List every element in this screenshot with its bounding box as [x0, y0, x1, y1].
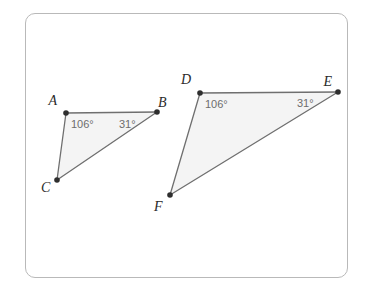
vertex-dot-c	[54, 177, 60, 183]
vertex-label-c: C	[41, 180, 51, 195]
vertex-dot-b	[154, 109, 160, 115]
vertex-dot-e	[335, 89, 341, 95]
vertex-label-f: F	[153, 199, 163, 214]
vertex-label-a: A	[47, 93, 57, 108]
angle-label-a: 106°	[71, 118, 94, 130]
vertex-label-d: D	[180, 72, 191, 87]
vertex-dot-d	[197, 90, 203, 96]
vertex-label-b: B	[158, 95, 167, 110]
triangle-def: D E F 106° 31°	[153, 72, 341, 214]
vertex-dot-f	[167, 192, 173, 198]
angle-label-d: 106°	[205, 98, 228, 110]
figure-screenshot: A B C 106° 31° D E F 106° 31°	[0, 0, 372, 294]
triangle-abc: A B C 106° 31°	[41, 93, 167, 195]
geometry-figure: A B C 106° 31° D E F 106° 31°	[0, 0, 372, 294]
angle-label-e: 31°	[297, 97, 314, 109]
vertex-dot-a	[63, 110, 69, 116]
vertex-label-e: E	[322, 74, 332, 89]
angle-label-b: 31°	[119, 118, 136, 130]
